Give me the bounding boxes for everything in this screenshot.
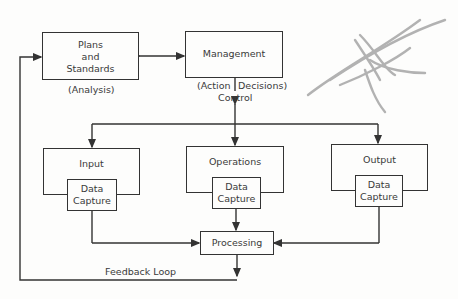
plans-and-standards-box: Plans and Standards (42, 32, 139, 80)
scribble-mark (308, 20, 445, 112)
analysis-caption: (Analysis) (68, 84, 115, 96)
output-data-capture-box: Data Capture (355, 175, 403, 207)
decisions-caption: Decisions) (238, 80, 287, 92)
control-label: Control (218, 92, 252, 104)
action-caption: (Action (197, 80, 230, 92)
management-label: Management (186, 48, 282, 60)
output-label: Output (332, 154, 427, 166)
operations-data-capture-box: Data Capture (212, 177, 261, 209)
processing-box: Processing (200, 231, 274, 255)
input-data-capture-box: Data Capture (67, 179, 117, 211)
processing-label: Processing (201, 237, 273, 249)
input-label: Input (44, 158, 139, 170)
plans-label: Plans and Standards (43, 39, 138, 75)
operations-label: Operations (187, 156, 283, 168)
management-box: Management (185, 31, 283, 78)
feedback-loop-label: Feedback Loop (105, 266, 176, 278)
